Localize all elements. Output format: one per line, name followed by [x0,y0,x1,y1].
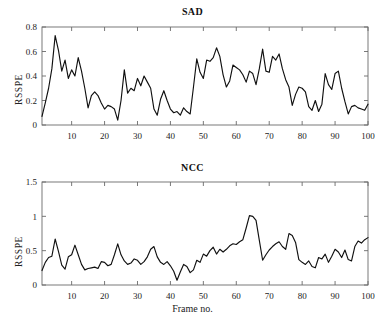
sad-y-tick-label: 0.8 [26,22,38,32]
ncc-x-tick-label: 30 [133,291,143,301]
sad-x-tick-label: 30 [133,131,143,141]
ncc-x-tick-label: 90 [331,291,341,301]
ncc-axis-frame [42,182,368,285]
sad-x-tick-label: 70 [265,131,275,141]
figure-rsspe-comparison: SAD RSSPE 00.20.40.60.810203040506070809… [0,0,385,322]
ncc-x-tick-label: 100 [361,291,375,301]
sad-x-tick-label: 60 [232,131,242,141]
sad-x-tick-label: 80 [298,131,308,141]
sad-y-tick-label: 0.6 [26,47,38,57]
sad-x-tick-label: 50 [199,131,209,141]
sad-y-tick-label: 0.4 [26,71,38,81]
ncc-x-tick-label: 80 [298,291,308,301]
ncc-x-tick-label: 70 [265,291,275,301]
ncc-x-tick-label: 20 [100,291,110,301]
ncc-x-tick-label: 10 [67,291,77,301]
ncc-x-tick-label: 50 [199,291,209,301]
plot-area-sad: 00.20.40.60.8102030405060708090100 [0,0,385,155]
ncc-data-line [42,216,368,281]
sad-x-tick-label: 10 [67,131,77,141]
ncc-y-tick-label: 0 [33,280,38,290]
chart-panel-ncc: NCC RSSPE Frame no. 00.511.5102030405060… [0,155,385,322]
ncc-y-tick-label: 1 [33,212,38,222]
ncc-x-tick-label: 40 [166,291,176,301]
sad-data-line [42,36,368,121]
ncc-y-tick-label: 0.5 [26,246,38,256]
sad-y-tick-label: 0 [33,120,38,130]
chart-panel-sad: SAD RSSPE 00.20.40.60.810203040506070809… [0,0,385,155]
ncc-y-tick-label: 1.5 [26,177,38,187]
sad-x-tick-label: 20 [100,131,110,141]
sad-x-tick-label: 100 [361,131,375,141]
plot-area-ncc: 00.511.5102030405060708090100 [0,155,385,322]
sad-y-tick-label: 0.2 [26,96,37,106]
ncc-x-tick-label: 60 [232,291,242,301]
sad-x-tick-label: 90 [331,131,341,141]
sad-x-tick-label: 40 [166,131,176,141]
